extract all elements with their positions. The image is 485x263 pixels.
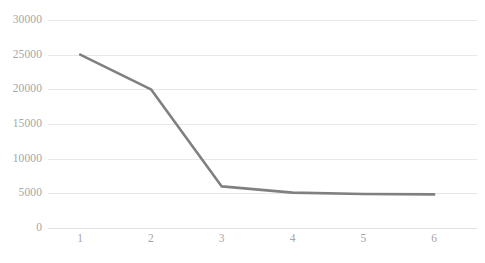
x-axis-tick-label: 2 (148, 232, 154, 246)
y-axis-tick-label: 30000 (0, 14, 42, 26)
x-axis-tick-label: 5 (360, 232, 366, 246)
y-axis-tick-label: 20000 (0, 84, 42, 96)
y-axis-tick-label: 15000 (0, 118, 42, 130)
data-series-line (48, 20, 477, 228)
y-axis-tick-label: 25000 (0, 49, 42, 61)
y-axis-tick-label: 10000 (0, 153, 42, 165)
x-axis-tick-label: 1 (77, 232, 83, 246)
x-axis-tick-labels: 1 2 3 4 5 6 (48, 232, 477, 254)
y-axis-tick-labels: 30000 25000 20000 15000 10000 5000 0 (0, 20, 42, 228)
y-axis-tick-label: 5000 (0, 188, 42, 200)
x-axis-tick-label: 3 (219, 232, 225, 246)
gridline-0 (48, 228, 477, 229)
y-axis-tick-label: 0 (0, 222, 42, 234)
line-chart: 30000 25000 20000 15000 10000 5000 0 1 2… (0, 0, 485, 263)
plot-area (48, 20, 477, 228)
x-axis-tick-label: 4 (290, 232, 296, 246)
x-axis-tick-label: 6 (431, 232, 437, 246)
